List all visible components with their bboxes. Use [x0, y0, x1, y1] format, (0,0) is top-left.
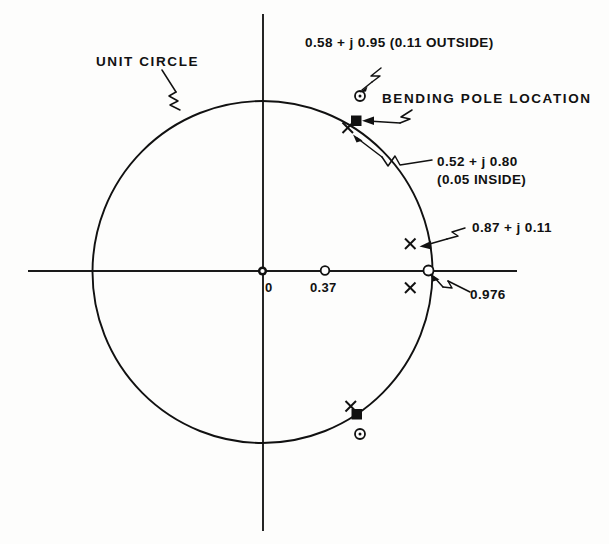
label-origin: 0: [265, 280, 273, 295]
zero-marker-0.976: [424, 266, 434, 276]
origin-marker-core: [260, 269, 264, 273]
pole-right-leader-squiggle: [447, 228, 465, 239]
label-unit-circle: UNIT CIRCLE: [96, 54, 199, 69]
label-zero-upper: 0.58 + j 0.95 (0.11 OUTSIDE): [305, 35, 494, 50]
figure-root: UNIT CIRCLE 0.58 + j 0.95 (0.11 OUTSIDE)…: [0, 0, 609, 544]
unit-circle-pole-zero-diagram: UNIT CIRCLE 0.58 + j 0.95 (0.11 OUTSIDE)…: [0, 0, 609, 544]
bending-pole-leader-squiggle: [400, 110, 412, 123]
pole-right-arrowhead: [420, 241, 432, 250]
zero-upper-leader-squiggle: [371, 68, 381, 82]
pole-marker-0.87-j0.11: [405, 283, 416, 294]
bending-pole-marker-lower: [352, 410, 362, 420]
label-zero-real: 0.976: [470, 287, 506, 302]
pole-marker-0.87+j0.11: [405, 239, 416, 250]
zero-marker-0.58+j0.95-center: [359, 95, 362, 98]
label-pole-upper-line1: 0.52 + j 0.80: [437, 154, 518, 169]
unit-circle-leader-squiggle: [169, 92, 180, 110]
zero-marker-0.37: [321, 266, 330, 275]
bending-pole-arrowhead: [362, 117, 374, 126]
zero-marker-0.58-j0.95-center: [359, 433, 362, 436]
label-pole-right: 0.87 + j 0.11: [472, 220, 552, 235]
label-zero-037: 0.37: [310, 280, 337, 295]
zero-upper-leader-line: [362, 82, 372, 90]
label-pole-upper-line2: (0.05 INSIDE): [437, 172, 526, 187]
unit-circle-leader-line: [162, 70, 176, 92]
label-bending-pole: BENDING POLE LOCATION: [382, 91, 592, 106]
bending-pole-marker-upper: [352, 116, 362, 126]
